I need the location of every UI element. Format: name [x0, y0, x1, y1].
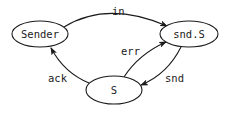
edge-label-err: err [121, 45, 140, 57]
node-label-s: S [111, 84, 117, 96]
edge-in: in [64, 5, 167, 27]
edge-label-snd: snd [165, 72, 184, 84]
node-label-snd-s: snd.S [173, 28, 205, 40]
node-snd-s: snd.S [160, 21, 218, 47]
edge-err: err [121, 42, 166, 77]
edge-label-in: in [112, 5, 125, 17]
node-s: S [86, 76, 142, 104]
node-label-sender: Sender [21, 28, 59, 40]
edge-label-ack: ack [48, 72, 68, 84]
state-diagram: in err snd ack Sender snd.S S [0, 0, 229, 115]
edge-ack: ack [48, 48, 89, 84]
node-sender: Sender [12, 21, 68, 47]
